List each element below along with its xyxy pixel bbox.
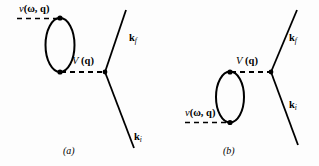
a-screened-interaction-symbol: V (72, 55, 78, 66)
b-fermion-arrow-initial (285, 110, 288, 118)
b-momentum-final-label: kf (289, 33, 297, 44)
b-bare-interaction-args: (ω, q) (190, 107, 216, 118)
panel-b-graphics (185, 10, 298, 145)
b-loop-bottom-vertex (227, 120, 232, 125)
a-screened-interaction-args: (q) (81, 55, 94, 66)
a-polarization-bubble (46, 18, 75, 72)
a-bare-interaction-label: v(ω, q) (19, 4, 49, 15)
b-bare-interaction-label: v(ω, q) (185, 108, 215, 119)
a-fermion-line-initial (105, 72, 134, 148)
a-bare-interaction-args: (ω, q) (24, 3, 50, 14)
b-momentum-final-subscript: f (295, 36, 297, 45)
a-fermion-line-final (105, 10, 126, 72)
b-polarization-bubble (216, 72, 244, 123)
panel-a-graphics (17, 10, 134, 148)
panel-a-caption: (a) (63, 146, 75, 156)
a-momentum-final-subscript: f (135, 36, 137, 45)
a-screened-interaction-label: V (q) (72, 56, 94, 67)
b-screened-interaction-label: V (q) (236, 56, 258, 67)
b-screened-interaction-args: (q) (245, 55, 258, 66)
a-loop-top-vertex (57, 15, 62, 20)
diagram-canvas (0, 0, 319, 166)
a-fermion-arrow-initial (121, 114, 124, 122)
a-momentum-initial-subscript: i (140, 135, 142, 144)
panel-b-caption: (b) (223, 146, 235, 156)
b-momentum-initial-label: ki (289, 100, 297, 111)
b-screened-interaction-symbol: V (236, 55, 242, 66)
b-momentum-initial-subscript: i (295, 103, 297, 112)
a-momentum-final-label: kf (129, 33, 137, 44)
a-momentum-initial-label: ki (134, 132, 142, 143)
feynman-diagram-figure: v(ω, q) V (q) kf ki (a) V (q) v(ω, q) kf… (0, 0, 319, 166)
